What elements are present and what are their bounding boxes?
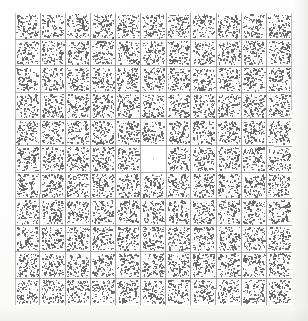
dot-density-grid [15, 13, 292, 305]
center-marker-dot [152, 158, 154, 160]
stimulus-canvas: Dot density grid array A square array of… [0, 0, 308, 321]
grid-svg [15, 13, 292, 305]
grid-cell [65, 93, 90, 120]
grid-cell [166, 66, 191, 93]
grid-cell [15, 40, 40, 67]
grid-cell [116, 119, 141, 146]
grid-line-horizontal [15, 119, 292, 120]
